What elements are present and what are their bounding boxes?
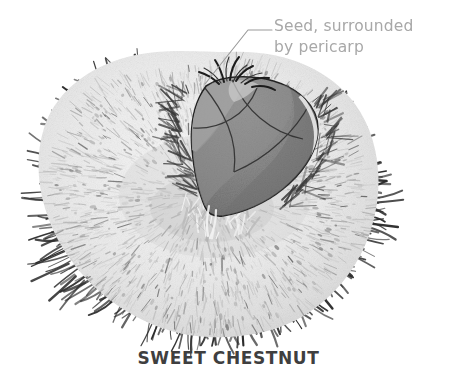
husk-hair (215, 262, 216, 266)
husk-hair (68, 223, 82, 224)
husk-hair (53, 179, 59, 180)
husk-hair (341, 206, 348, 207)
husk-fleck (96, 195, 102, 197)
annotation-line-1: Seed, surrounded (274, 16, 454, 37)
husk-hair (366, 200, 378, 201)
husk-rim-spine (172, 130, 180, 132)
husk-hair (195, 66, 196, 72)
husk-hair (349, 192, 361, 193)
figure-caption: SWEET CHESTNUT (0, 348, 457, 368)
illustration-stage: Seed, surrounded by pericarp SWEET CHEST… (0, 0, 457, 376)
opening-fibre (249, 231, 250, 238)
husk-hair (39, 182, 53, 183)
husk-hair (199, 268, 200, 274)
husk-hair (217, 318, 218, 322)
husk-hair (84, 192, 91, 193)
annotation-line-2: by pericarp (274, 37, 454, 58)
seed-annotation-label: Seed, surrounded by pericarp (274, 16, 454, 58)
husk-hair (204, 319, 205, 325)
husk-rim-spine (310, 171, 319, 172)
husk-hair (341, 228, 345, 229)
husk-hair (108, 181, 122, 182)
husk-hair (231, 323, 232, 328)
husk-hair (366, 215, 377, 216)
